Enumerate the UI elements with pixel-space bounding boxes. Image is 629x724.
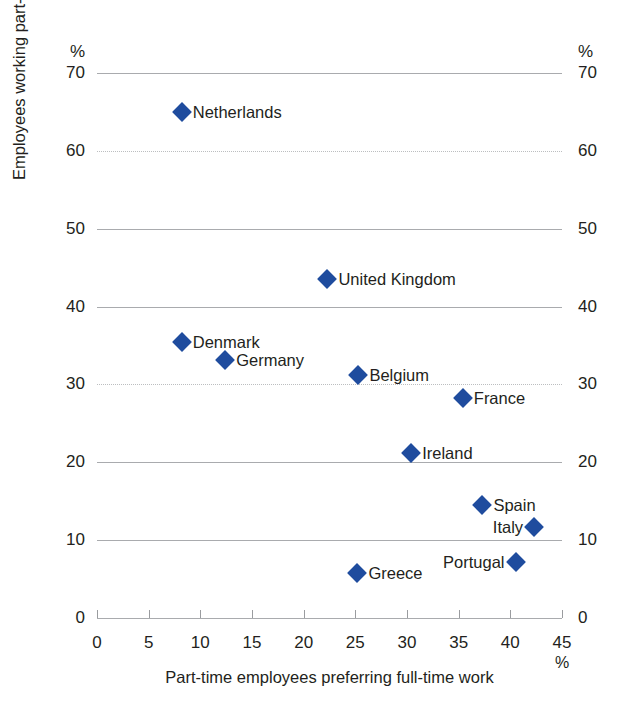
- y-tick-label-left-0: 0: [76, 609, 85, 626]
- x-tick-label-15: 15: [243, 634, 262, 651]
- data-point-label: Greece: [368, 563, 422, 583]
- data-point-label: Portugal: [443, 552, 504, 572]
- gridline-y-10: [97, 540, 562, 541]
- x-axis-title: Part-time employees preferring full-time…: [97, 668, 562, 687]
- y-tick-label-left-40: 40: [66, 298, 85, 315]
- y-tick-label-right-50: 50: [578, 220, 597, 237]
- scatter-chart-figure: 010203040506070% 010203040506070% Nether…: [0, 0, 629, 724]
- x-axis-tick-0: [97, 610, 98, 618]
- data-point-label: Belgium: [369, 365, 429, 385]
- diamond-marker-icon: [506, 552, 526, 572]
- gridline-y-20: [97, 462, 562, 463]
- diamond-marker-icon: [215, 350, 235, 370]
- y-tick-label-left-20: 20: [66, 453, 85, 470]
- x-tick-label-20: 20: [294, 634, 313, 651]
- y-tick-label-left-10: 10: [66, 531, 85, 548]
- data-point-label: Ireland: [422, 443, 472, 463]
- gridline-y-70: [97, 73, 562, 74]
- x-tick-label-25: 25: [346, 634, 365, 651]
- x-tick-label-5: 5: [144, 634, 153, 651]
- diamond-marker-icon: [347, 563, 367, 583]
- diamond-marker-icon: [172, 332, 192, 352]
- x-tick-label-35: 35: [449, 634, 468, 651]
- x-axis-tick-5: [149, 610, 150, 618]
- data-point-label: Germany: [236, 350, 304, 370]
- diamond-marker-icon: [318, 269, 338, 289]
- diamond-marker-icon: [524, 517, 544, 537]
- x-tick-label-30: 30: [398, 634, 417, 651]
- data-point-label: Spain: [493, 495, 535, 515]
- y-tick-label-right-20: 20: [578, 453, 597, 470]
- x-axis-tick-15: [252, 610, 253, 618]
- x-axis-tick-40: [510, 610, 511, 618]
- x-axis-tick-45: [562, 610, 563, 618]
- y-axis-unit-right: %: [578, 43, 593, 60]
- x-axis-unit: %: [555, 654, 569, 672]
- x-axis-tick-35: [459, 610, 460, 618]
- gridline-y-50: [97, 229, 562, 230]
- x-tick-label-0: 0: [92, 634, 101, 651]
- y-tick-label-right-40: 40: [578, 298, 597, 315]
- diamond-marker-icon: [473, 495, 493, 515]
- gridline-y-30: [97, 384, 562, 385]
- x-axis-tick-30: [407, 610, 408, 618]
- x-tick-label-45: 45: [553, 634, 572, 651]
- x-tick-label-40: 40: [501, 634, 520, 651]
- y-axis-unit-left: %: [70, 43, 85, 60]
- y-tick-label-right-0: 0: [578, 609, 587, 626]
- data-point-label: Netherlands: [193, 102, 282, 122]
- data-point-label: France: [474, 388, 525, 408]
- y-tick-label-left-30: 30: [66, 375, 85, 392]
- x-axis-tick-10: [200, 610, 201, 618]
- diamond-marker-icon: [453, 389, 473, 409]
- y-tick-label-left-50: 50: [66, 220, 85, 237]
- y-tick-label-left-60: 60: [66, 142, 85, 159]
- diamond-marker-icon: [401, 443, 421, 463]
- x-tick-label-10: 10: [191, 634, 210, 651]
- plot-area: NetherlandsUnited KingdomDenmarkGermanyB…: [97, 73, 562, 618]
- x-axis-tick-25: [355, 610, 356, 618]
- data-point-label: Italy: [493, 517, 523, 537]
- y-tick-label-right-30: 30: [578, 375, 597, 392]
- gridline-y-0: [97, 618, 562, 619]
- data-point-label: United Kingdom: [338, 269, 455, 289]
- x-axis-tick-20: [304, 610, 305, 618]
- y-tick-label-left-70: 70: [66, 64, 85, 81]
- y-axis-labels-right: 010203040506070%: [578, 0, 623, 724]
- y-tick-label-right-60: 60: [578, 142, 597, 159]
- diamond-marker-icon: [349, 365, 369, 385]
- diamond-marker-icon: [172, 102, 192, 122]
- gridline-y-40: [97, 307, 562, 308]
- y-tick-label-right-70: 70: [578, 64, 597, 81]
- y-axis-labels-left: 010203040506070%: [45, 0, 85, 724]
- y-axis-title: Employees working part-time: [10, 0, 29, 180]
- gridline-y-60: [97, 151, 562, 152]
- y-tick-label-right-10: 10: [578, 531, 597, 548]
